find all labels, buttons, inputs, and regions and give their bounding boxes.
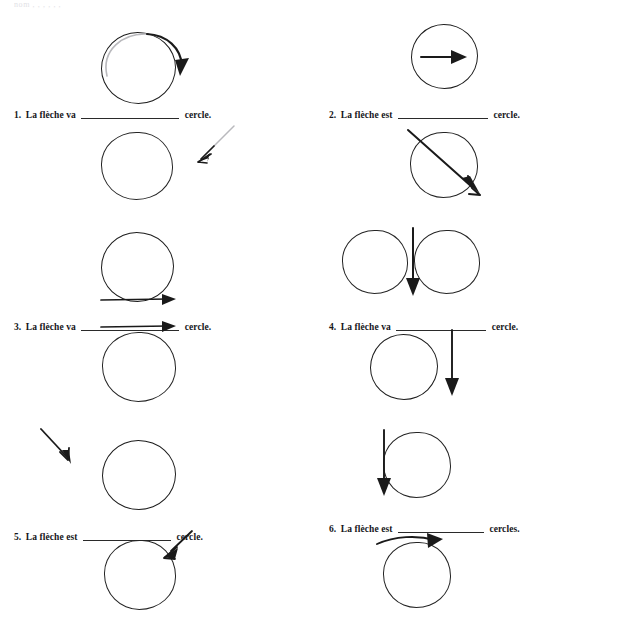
arrow-curving-over-top-of-circle-icon bbox=[373, 530, 463, 560]
figure-11 bbox=[0, 528, 315, 610]
question-item-7: 7. La flèche est cercle. bbox=[0, 316, 315, 420]
question-item-9: 9. La flèche est cercle. bbox=[0, 424, 315, 524]
figure-1 bbox=[0, 14, 315, 94]
circle-shape bbox=[102, 332, 176, 402]
question-number: 2. bbox=[329, 110, 336, 120]
question-item-11: 11. La flèche est cercle. bbox=[0, 528, 315, 632]
question-item-8: 8. La flèche est cercle. bbox=[315, 328, 630, 428]
question-text-1: 1. La flèche va cercle. bbox=[14, 110, 211, 120]
figure-8 bbox=[315, 328, 630, 406]
question-item-12: 12. La flèche est cercle. bbox=[315, 530, 630, 634]
down-arrow-right-of-circle-icon bbox=[441, 328, 463, 400]
figure-3 bbox=[0, 120, 315, 198]
figure-12 bbox=[315, 530, 630, 610]
circle-shape bbox=[101, 132, 173, 200]
worksheet-page: nom , , , , , , bbox=[0, 0, 630, 641]
figure-6 bbox=[315, 224, 630, 302]
worksheet-column-left: 1. La flèche va cercle. 3. La flèche va bbox=[0, 0, 315, 641]
circle-shape bbox=[370, 334, 438, 400]
diagonal-arrow-down-right-icon bbox=[38, 426, 98, 476]
arrow-inside-circle-pointing-right-icon bbox=[419, 47, 473, 67]
down-arrow-between-two-circles-icon bbox=[403, 226, 425, 300]
question-lead: La flèche va bbox=[26, 110, 76, 120]
worksheet-column-right: 2. La flèche est cercle. 4. La flèche va bbox=[315, 0, 630, 641]
question-item-1: 1. La flèche va cercle. bbox=[0, 14, 315, 114]
question-item-3: 3. La flèche va cercle. bbox=[0, 120, 315, 220]
figure-10 bbox=[315, 428, 630, 508]
arrow-crossing-through-circle-diagonally-icon bbox=[400, 124, 500, 204]
question-item-10: 10. La flèche est cercle. bbox=[315, 428, 630, 528]
figure-7 bbox=[0, 316, 315, 400]
horizontal-arrow-below-circle-icon bbox=[100, 290, 180, 310]
down-arrow-left-of-circle-icon bbox=[373, 428, 395, 500]
question-item-4: 4. La flèche va cercle. bbox=[315, 120, 630, 220]
figure-2 bbox=[315, 14, 630, 94]
arrow-pointing-down-left-toward-circle-icon bbox=[180, 122, 250, 182]
circle-shape bbox=[102, 440, 176, 510]
figure-5 bbox=[0, 228, 315, 306]
question-item-5: 5. La flèche est cercle. bbox=[0, 228, 315, 328]
question-tail: cercle. bbox=[185, 110, 212, 120]
figure-4 bbox=[315, 120, 630, 200]
arrow-circling-around-circle-icon bbox=[85, 24, 200, 114]
arrow-entering-circle-from-upper-right-icon bbox=[140, 528, 210, 588]
answer-blank[interactable] bbox=[398, 110, 488, 119]
question-tail: cercle. bbox=[493, 110, 520, 120]
question-number: 1. bbox=[14, 110, 21, 120]
circle-shape-left bbox=[342, 230, 408, 294]
question-text-2: 2. La flèche est cercle. bbox=[329, 110, 520, 120]
question-item-2: 2. La flèche est cercle. bbox=[315, 14, 630, 114]
figure-9 bbox=[0, 424, 315, 504]
question-lead: La flèche est bbox=[341, 110, 393, 120]
question-item-6: 6. La flèche est cercles. bbox=[315, 224, 630, 324]
answer-blank[interactable] bbox=[81, 110, 179, 119]
